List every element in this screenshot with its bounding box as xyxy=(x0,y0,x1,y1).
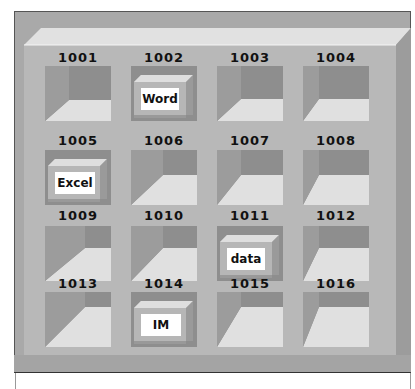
drawer-label-im[interactable]: IM xyxy=(141,314,181,336)
cabinet-right-face xyxy=(396,28,411,372)
cell-label-1012: 1012 xyxy=(303,208,369,223)
cell-1002[interactable]: Word xyxy=(131,66,197,121)
cell-label-1007: 1007 xyxy=(217,133,283,148)
cell-label-1014: 1014 xyxy=(131,276,197,291)
cell-1011[interactable]: data xyxy=(217,226,283,281)
cell-1010[interactable] xyxy=(131,226,197,281)
cell-label-1015: 1015 xyxy=(217,276,283,291)
drawer-label-data[interactable]: data xyxy=(227,248,265,270)
cell-1006[interactable] xyxy=(131,150,197,205)
cell-label-1006: 1006 xyxy=(131,133,197,148)
cell-label-1004: 1004 xyxy=(303,50,369,65)
cabinet-top-face xyxy=(24,28,411,45)
cell-1008[interactable] xyxy=(303,150,369,205)
cell-1009[interactable] xyxy=(45,226,111,281)
cell-label-1008: 1008 xyxy=(303,133,369,148)
cell-1003[interactable] xyxy=(217,66,283,121)
bottom-strip xyxy=(15,373,411,389)
cell-label-1001: 1001 xyxy=(45,50,111,65)
cell-1013[interactable] xyxy=(45,292,111,347)
cell-1015[interactable] xyxy=(217,292,283,347)
drawer-label-word[interactable]: Word xyxy=(141,88,179,110)
cell-1016[interactable] xyxy=(303,292,369,347)
cell-label-1009: 1009 xyxy=(45,208,111,223)
cell-label-1011: 1011 xyxy=(217,208,283,223)
cell-label-1005: 1005 xyxy=(45,133,111,148)
cell-1005[interactable]: Excel xyxy=(45,150,111,205)
cell-label-1003: 1003 xyxy=(217,50,283,65)
cell-1001[interactable] xyxy=(45,66,111,121)
cell-1014[interactable]: IM xyxy=(131,292,197,347)
cell-label-1010: 1010 xyxy=(131,208,197,223)
cell-label-1013: 1013 xyxy=(45,276,111,291)
cell-label-1016: 1016 xyxy=(303,276,369,291)
drawer-label-excel[interactable]: Excel xyxy=(55,172,95,194)
cell-1012[interactable] xyxy=(303,226,369,281)
cabinet-base xyxy=(14,355,411,372)
cell-1007[interactable] xyxy=(217,150,283,205)
cell-label-1002: 1002 xyxy=(131,50,197,65)
cell-1004[interactable] xyxy=(303,66,369,121)
